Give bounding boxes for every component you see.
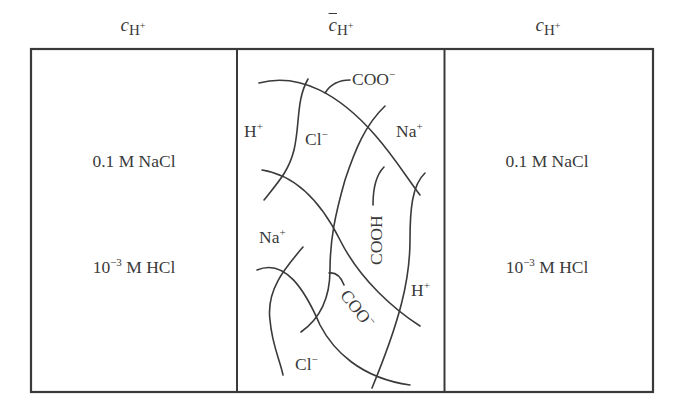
ion-charge: + [416, 120, 422, 132]
hcl-exponent: −3 [523, 256, 535, 268]
right-nacl-label: 0.1 M NaCl [444, 151, 650, 172]
ion-cl-top: Cl− [305, 128, 328, 150]
ion-charge: + [279, 226, 285, 238]
left-hcl-label: 10−3 M HCl [31, 256, 237, 278]
ion-h-mid: H+ [411, 279, 430, 301]
left-nacl-label: 0.1 M NaCl [31, 151, 237, 172]
ion-symbol: Cl [305, 129, 322, 149]
hcl-unit: M HCl [535, 257, 588, 277]
ion-charge: − [322, 128, 328, 140]
ion-charge: + [424, 279, 430, 291]
hcl-exponent: −3 [110, 256, 122, 268]
hcl-unit: M HCl [122, 257, 175, 277]
ion-na-mid: Na+ [259, 226, 286, 248]
hcl-base: 10 [93, 257, 111, 277]
group-coo-top: COO− [352, 68, 395, 90]
ion-symbol: H [411, 280, 424, 300]
ion-na-top: Na+ [396, 120, 423, 142]
ion-charge: − [312, 353, 318, 365]
group-cooh: COOH [366, 215, 387, 265]
ion-charge: + [257, 120, 263, 132]
group-charge: − [389, 68, 395, 80]
ion-symbol: Na [259, 227, 279, 247]
membrane-diagram [0, 0, 681, 409]
ion-cl-bottom: Cl− [295, 353, 318, 375]
right-hcl-label: 10−3 M HCl [444, 256, 650, 278]
ion-symbol: H [244, 121, 257, 141]
outer-box [31, 49, 653, 392]
ion-symbol: Na [396, 121, 416, 141]
group-symbol: COO [352, 69, 389, 89]
hcl-base: 10 [506, 257, 524, 277]
ion-symbol: Cl [295, 354, 312, 374]
ion-h-top: H+ [244, 120, 263, 142]
